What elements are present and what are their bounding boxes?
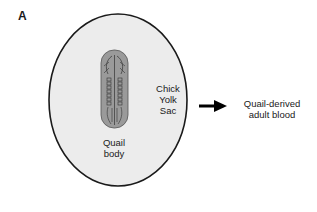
yolk-sac-label-line: Chick: [148, 83, 188, 94]
output-label: Quail-derived adult blood: [234, 98, 310, 120]
yolk-sac-label-line: Yolk: [148, 94, 188, 105]
yolk-sac-label-line: Sac: [148, 105, 188, 116]
quail-body-label-line: body: [92, 148, 136, 159]
quail-body-label-line: Quail: [92, 137, 136, 148]
output-label-line: Quail-derived: [234, 98, 310, 109]
arrow-right-icon: [199, 100, 227, 112]
quail-body-label: Quail body: [92, 137, 136, 159]
output-label-line: adult blood: [234, 109, 310, 120]
quail-embryo-icon: [101, 50, 128, 128]
yolk-sac-label: Chick Yolk Sac: [148, 83, 188, 116]
